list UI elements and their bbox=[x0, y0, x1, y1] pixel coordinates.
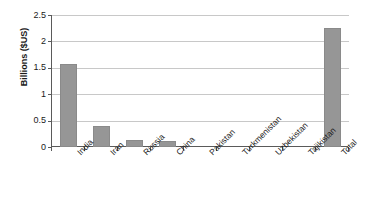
y-axis-tick-label: 0 bbox=[24, 143, 46, 152]
bar bbox=[93, 126, 110, 147]
x-axis-category-label: Uzbekistan bbox=[273, 150, 280, 157]
y-axis-tick-label: 1.5 bbox=[24, 63, 46, 72]
y-axis-tick-labels: 00.511.522.5 bbox=[24, 0, 46, 213]
y-axis-tick-label: 0.5 bbox=[24, 116, 46, 125]
x-axis-category-label: Tajikistan bbox=[306, 150, 313, 157]
x-axis-category-label: Pakistan bbox=[207, 150, 214, 157]
bar-chart: Billions ($US) 00.511.522.5 IndiaIranRus… bbox=[0, 0, 368, 213]
x-axis-category-label: Turkmenistan bbox=[240, 150, 247, 157]
x-axis-category-labels: IndiaIranRussiaChinaPakistanTurkmenistan… bbox=[51, 150, 368, 213]
x-axis-category-label: Russia bbox=[141, 150, 148, 157]
y-axis-tick-label: 2 bbox=[24, 37, 46, 46]
x-axis-category-label: Iran bbox=[108, 150, 115, 157]
x-axis-category-label: India bbox=[75, 150, 82, 157]
x-axis-category-label: China bbox=[174, 150, 181, 157]
bar bbox=[60, 64, 77, 147]
y-axis-tick-label: 1 bbox=[24, 90, 46, 99]
x-axis-category-label: Total bbox=[339, 150, 346, 157]
y-axis-tick-label: 2.5 bbox=[24, 11, 46, 20]
bar bbox=[126, 140, 143, 147]
